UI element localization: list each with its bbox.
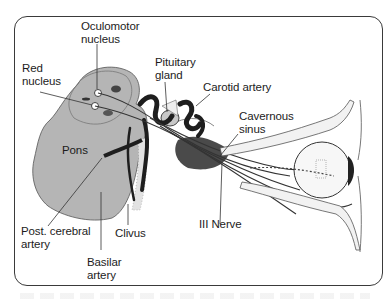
faded-caption-bleed [20,293,370,299]
orbit-floor [240,182,360,250]
label-cavernous-sinus: Cavernous sinus [239,110,294,136]
label-iii-nerve: III Nerve [199,218,242,231]
anatomy-illustration [0,0,391,303]
label-pons: Pons [62,144,88,157]
label-oculomotor-nucleus: Oculomotor nucleus [81,20,139,46]
label-clivus: Clivus [115,227,146,240]
label-red-nucleus: Red nucleus [22,62,61,88]
label-pituitary-gland: Pituitary gland [155,56,196,82]
cornea-iris [348,156,354,186]
label-basilar-artery: Basilar artery [87,256,121,282]
label-post-cerebral-artery: Post. cerebral artery [21,225,91,251]
label-carotid-artery: Carotid artery [203,81,271,94]
